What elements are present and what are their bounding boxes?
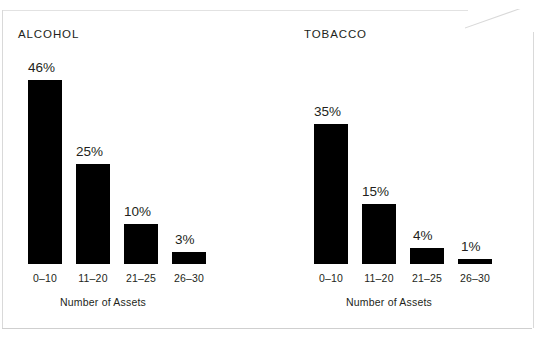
bar[interactable] <box>28 80 62 264</box>
bar-value-label: 1% <box>461 240 481 254</box>
chart-title-tobacco: TOBACCO <box>304 28 367 40</box>
figure-page: ALCOHOL 46% 25% 10% 3% <box>0 0 538 337</box>
bar[interactable] <box>172 252 206 264</box>
bar[interactable] <box>362 204 396 264</box>
x-tick-label: 0–10 <box>23 272 67 284</box>
bar-value-label: 35% <box>314 105 341 119</box>
bar[interactable] <box>76 164 110 264</box>
bar-value-label: 10% <box>124 205 151 219</box>
x-tick-label: 21–25 <box>405 272 449 284</box>
plot-area-alcohol: 46% 25% 10% 3% <box>28 64 228 264</box>
chart-group: ALCOHOL 46% 25% 10% 3% <box>0 0 538 337</box>
bar-chart-alcohol: ALCOHOL 46% 25% 10% 3% <box>0 0 269 337</box>
bar[interactable] <box>458 259 492 264</box>
x-tick-label: 26–30 <box>453 272 497 284</box>
bar-value-label: 46% <box>28 61 55 75</box>
x-tick-label: 11–20 <box>71 272 115 284</box>
x-tick-label: 21–25 <box>119 272 163 284</box>
x-tick-label: 26–30 <box>167 272 211 284</box>
bar-value-label: 3% <box>175 233 195 247</box>
x-tick-label: 0–10 <box>309 272 353 284</box>
x-axis-label: Number of Assets <box>346 296 432 308</box>
bar-chart-tobacco: TOBACCO 35% 15% 4% 1% <box>269 0 538 337</box>
bar[interactable] <box>124 224 158 264</box>
bar-value-label: 4% <box>413 229 433 243</box>
bar-value-label: 25% <box>76 145 103 159</box>
x-tick-label: 11–20 <box>357 272 401 284</box>
plot-area-tobacco: 35% 15% 4% 1% <box>314 64 514 264</box>
bar[interactable] <box>314 124 348 264</box>
bar[interactable] <box>410 248 444 264</box>
bar-value-label: 15% <box>362 185 389 199</box>
chart-title-alcohol: ALCOHOL <box>18 28 79 40</box>
x-axis-label: Number of Assets <box>60 296 146 308</box>
